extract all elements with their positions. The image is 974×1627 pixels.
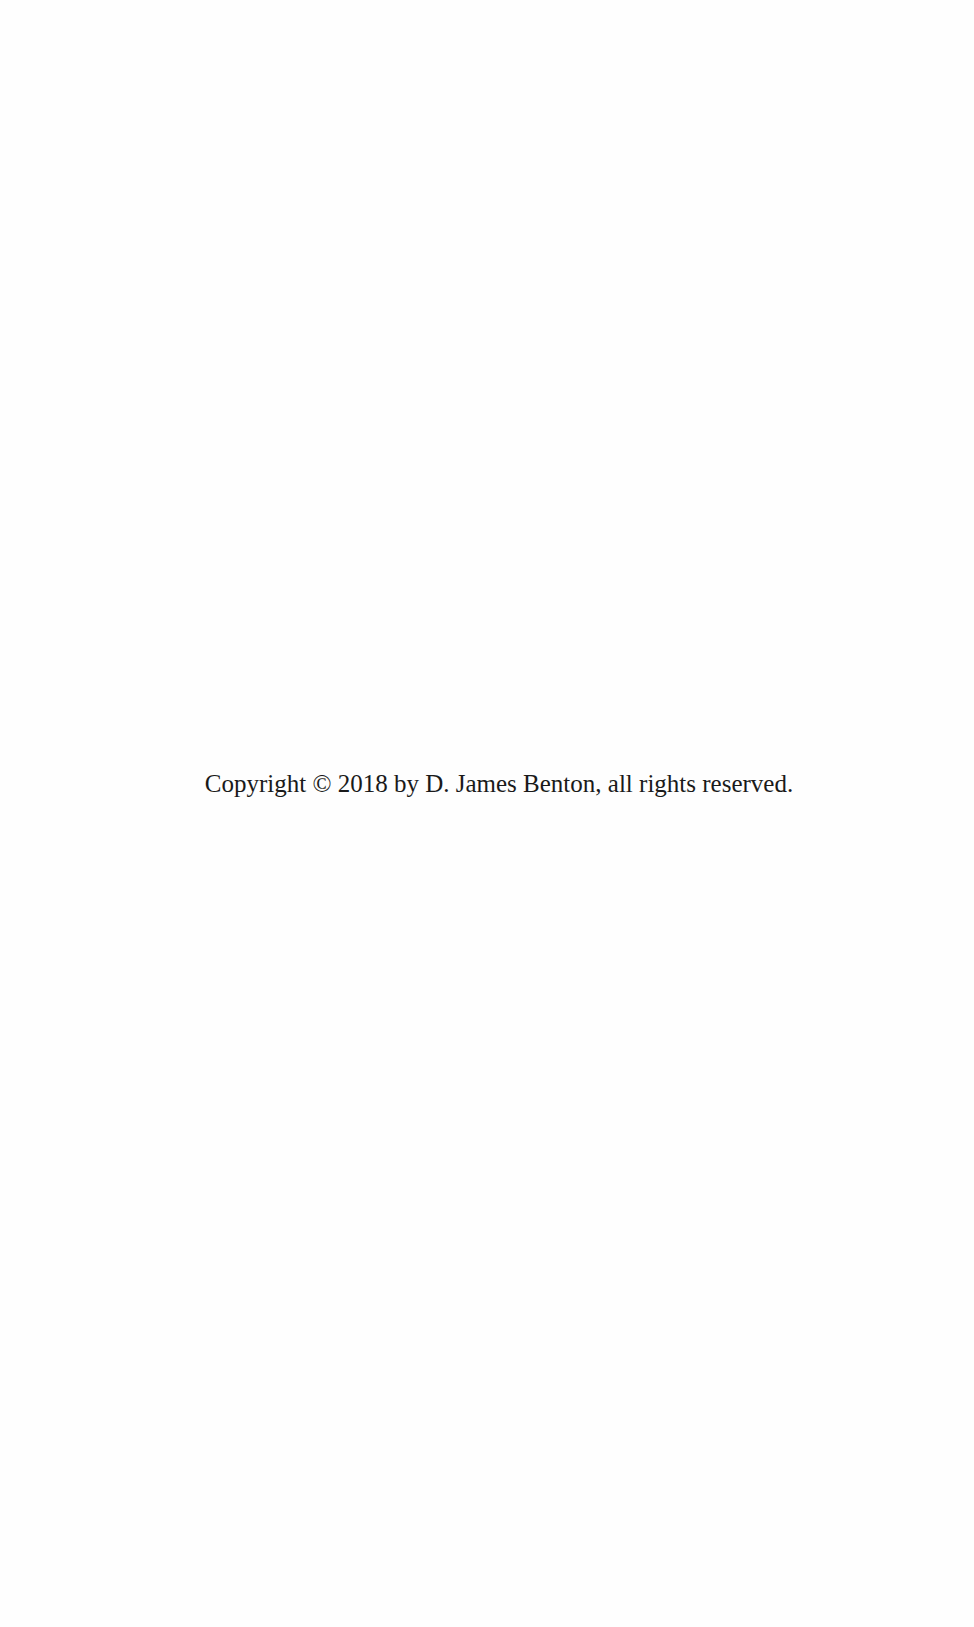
copyright-notice: Copyright © 2018 by D. James Benton, all…	[0, 768, 974, 800]
document-page: Copyright © 2018 by D. James Benton, all…	[0, 0, 974, 1627]
